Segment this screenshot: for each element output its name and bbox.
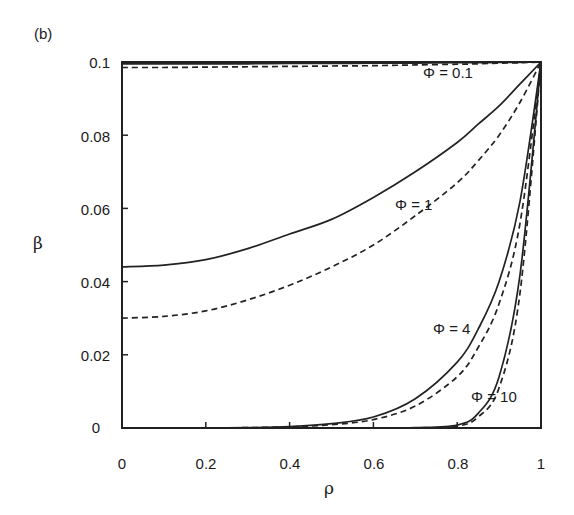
curve-line (122, 62, 541, 428)
annotation-phi-1: Φ = 1 (395, 196, 432, 213)
annotation-phi-0-1: Φ = 0.1 (423, 64, 473, 81)
annotation-phi-4: Φ = 4 (433, 320, 470, 337)
curve-line (122, 62, 541, 428)
curve-line (122, 62, 541, 318)
annotation-phi-10: Φ = 10 (471, 388, 517, 405)
plot-area (0, 0, 574, 515)
curve-line (122, 62, 541, 428)
curve-line (122, 62, 541, 267)
curve-line (122, 62, 541, 428)
plot-frame (122, 62, 541, 428)
